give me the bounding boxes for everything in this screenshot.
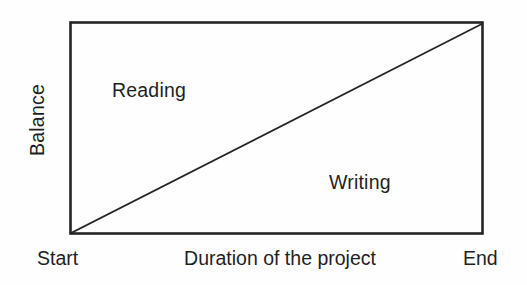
y-axis-label: Balance: [28, 84, 48, 156]
x-axis-tick-start: Start: [37, 249, 78, 269]
x-axis-tick-end: End: [463, 249, 498, 269]
x-axis-label: Duration of the project: [184, 249, 376, 269]
figure-canvas: Reading Writing Balance Start Duration o…: [0, 0, 527, 285]
figure-background: [0, 0, 527, 285]
region-label-reading: Reading: [112, 81, 186, 101]
region-label-writing: Writing: [329, 173, 391, 193]
plot-area: [0, 0, 527, 285]
